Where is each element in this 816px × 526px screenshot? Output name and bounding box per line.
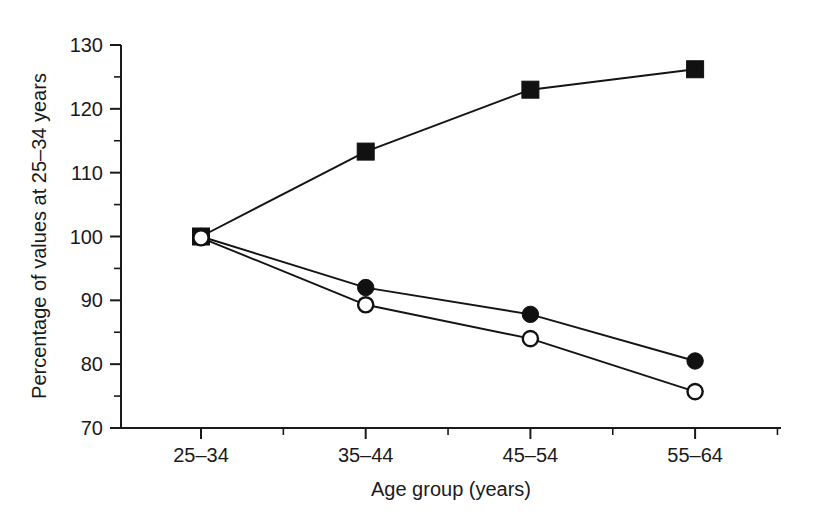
x-tick-label: 35–44 bbox=[338, 444, 394, 466]
y-axis-title: Percentage of values at 25–34 years bbox=[28, 73, 50, 399]
data-point-filled-square bbox=[357, 143, 374, 160]
series-line-open-circle-series bbox=[201, 238, 695, 392]
x-axis-ticks bbox=[201, 428, 777, 439]
y-tick-label: 110 bbox=[71, 162, 103, 184]
x-tick-label: 45–54 bbox=[503, 444, 559, 466]
data-point-filled-square bbox=[687, 61, 704, 78]
y-tick-label: 130 bbox=[70, 34, 103, 56]
y-tick-label: 120 bbox=[70, 98, 103, 120]
y-tick-label: 90 bbox=[81, 289, 103, 311]
data-point-filled-circle bbox=[522, 306, 538, 322]
y-tick-label: 80 bbox=[81, 353, 103, 375]
x-tick-label: 25–34 bbox=[173, 444, 229, 466]
y-tick-label: 70 bbox=[81, 417, 103, 439]
x-axis-tick-labels: 25–3435–4445–5455–64 bbox=[173, 444, 723, 466]
series-markers bbox=[193, 61, 704, 399]
data-point-open-circle bbox=[358, 297, 373, 312]
data-point-filled-square bbox=[522, 81, 539, 98]
data-point-open-circle bbox=[688, 384, 703, 399]
data-point-filled-circle bbox=[687, 353, 703, 369]
data-point-filled-circle bbox=[358, 279, 374, 295]
data-point-open-circle bbox=[523, 331, 538, 346]
y-tick-label: 100 bbox=[70, 226, 103, 248]
series-line-filled-square-series bbox=[201, 69, 695, 236]
series-line-filled-circle-series bbox=[201, 237, 695, 361]
y-axis-ticks bbox=[110, 45, 121, 428]
x-tick-label: 55–64 bbox=[667, 444, 723, 466]
y-axis-tick-labels: 708090100110120130 bbox=[70, 34, 103, 439]
data-point-open-circle bbox=[193, 230, 208, 245]
x-axis-title: Age group (years) bbox=[371, 478, 531, 500]
chart-figure: 708090100110120130 25–3435–4445–5455–64 … bbox=[0, 0, 816, 526]
series-lines bbox=[201, 69, 695, 391]
line-chart: 708090100110120130 25–3435–4445–5455–64 … bbox=[0, 0, 816, 526]
